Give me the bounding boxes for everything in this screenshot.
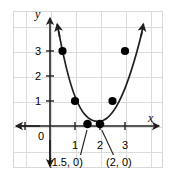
- origin-label: 0: [36, 131, 46, 142]
- y-tick-label-2: 2: [33, 71, 43, 82]
- gridline-horizontal: [14, 127, 162, 128]
- parabola-graph-figure: y x 0 1 2 3 1 2 3 (1.5, 0) (2, 0): [0, 0, 173, 180]
- x-tick-label-2: 2: [95, 140, 105, 151]
- plot-area: [13, 11, 163, 168]
- x-tick-label-3: 3: [120, 140, 130, 151]
- annotation-label-root-2: (2, 0): [106, 157, 132, 168]
- gridline-vertical: [51, 12, 52, 167]
- y-tick-label-3: 3: [33, 46, 43, 57]
- gridline-vertical: [26, 12, 27, 167]
- x-tick-label-1: 1: [70, 140, 80, 151]
- annotation-label-root-1: (1.5, 0): [48, 157, 83, 168]
- y-axis-label: y: [35, 8, 40, 20]
- gridline-vertical: [151, 12, 152, 167]
- gridline-horizontal: [14, 152, 162, 153]
- gridline-horizontal: [14, 27, 162, 28]
- y-tick-label-1: 1: [33, 96, 43, 107]
- x-axis-label: x: [148, 112, 153, 124]
